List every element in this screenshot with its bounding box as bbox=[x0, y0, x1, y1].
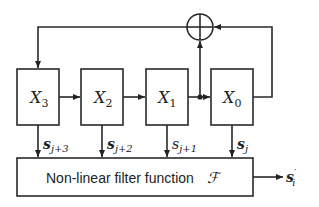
register-x2-label: X2 bbox=[92, 88, 112, 110]
filter-label: Non-linear filter function bbox=[46, 170, 194, 186]
register-x0-label: X0 bbox=[221, 88, 241, 110]
tap-label-j1: sj+1 bbox=[172, 136, 197, 154]
junction-dot bbox=[197, 94, 202, 99]
tap-label-j2: sj+2 bbox=[107, 136, 133, 154]
lfsr-diagram: X3 X2 X1 X0 sj+3 sj+2 sj+1 sj Non-linear… bbox=[0, 0, 319, 207]
tap-label-j0: sj bbox=[237, 136, 248, 154]
tap-label-j3: sj+3 bbox=[43, 136, 69, 154]
register-x3-label: X3 bbox=[28, 88, 48, 110]
output-label: s′i bbox=[286, 167, 297, 188]
filter-symbol: ℱ bbox=[207, 169, 222, 187]
register-x1-label: X1 bbox=[156, 88, 176, 110]
